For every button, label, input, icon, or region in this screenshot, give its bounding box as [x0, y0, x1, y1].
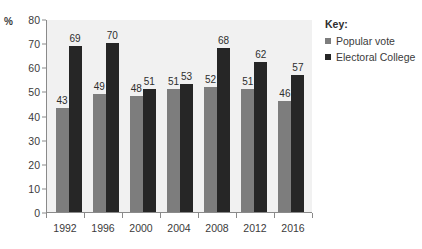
x-axis-tick-mark [160, 213, 161, 218]
bar-value-label: 46 [279, 89, 290, 101]
bar-column: 70 [106, 20, 119, 212]
y-axis-tick-mark [42, 44, 46, 45]
y-axis-tick-label: 0 [18, 207, 40, 219]
bar-column: 46 [278, 20, 291, 212]
x-axis-tick-mark [274, 213, 275, 218]
bar-electoral-college [69, 46, 82, 212]
y-axis-tick-label: 50 [18, 86, 40, 98]
x-axis-tick-label: 1992 [53, 222, 76, 234]
bar-column: 51 [241, 20, 254, 212]
bar-value-label: 48 [131, 84, 142, 96]
bars-layer: 4369497048515153526851624657 [47, 20, 312, 212]
legend-label: Popular vote [336, 35, 395, 47]
y-axis-tick-mark [42, 68, 46, 69]
y-axis-tick-label: 30 [18, 135, 40, 147]
x-axis-tick-mark [84, 213, 85, 218]
x-axis-tick-label: 2016 [281, 222, 304, 234]
bar-electoral-college [254, 62, 267, 212]
bar-column: 48 [130, 20, 143, 212]
bar-electoral-college [291, 75, 304, 213]
bar-chart: % 80706050403020100 43694970485151535268… [0, 0, 422, 249]
legend-entry: Popular vote [325, 35, 420, 47]
y-axis-unit-label: % [4, 16, 13, 27]
x-axis-tick-mark [236, 213, 237, 218]
legend-entries: Popular voteElectoral College [325, 35, 420, 63]
bar-electoral-college [106, 43, 119, 212]
y-axis-tick-mark [42, 92, 46, 93]
bar-group: 4970 [87, 20, 124, 212]
bar-group: 4369 [50, 20, 87, 212]
bar-group: 5162 [236, 20, 273, 212]
bar-group: 5268 [199, 20, 236, 212]
x-axis-tick-label: 2008 [205, 222, 228, 234]
bar-value-label: 53 [181, 72, 192, 84]
bar-column: 57 [291, 20, 304, 212]
bar-column: 53 [180, 20, 193, 212]
legend-swatch-icon [325, 54, 331, 60]
y-axis-tick-label: 40 [18, 111, 40, 123]
bar-group: 4657 [273, 20, 310, 212]
bar-value-label: 49 [94, 82, 105, 94]
bar-column: 68 [217, 20, 230, 212]
bar-value-label: 43 [57, 96, 68, 108]
legend-label: Electoral College [336, 51, 415, 63]
x-axis-tick-label: 2012 [243, 222, 266, 234]
bar-group: 5153 [161, 20, 198, 212]
x-axis-tick-label: 2000 [129, 222, 152, 234]
bar-popular-vote [130, 96, 143, 212]
x-axis-tick-label: 1996 [91, 222, 114, 234]
bar-value-label: 69 [70, 34, 81, 46]
y-axis-tick-label: 60 [18, 62, 40, 74]
y-axis-tick-mark [42, 164, 46, 165]
bar-value-label: 70 [107, 31, 118, 43]
y-axis-tick-mark [42, 213, 46, 214]
bar-popular-vote [241, 89, 254, 212]
plot-area: 4369497048515153526851624657 [46, 20, 312, 213]
y-axis-tick-mark [42, 116, 46, 117]
bar-column: 52 [204, 20, 217, 212]
y-axis-tick-labels: 80706050403020100 [16, 0, 40, 249]
bar-group: 4851 [124, 20, 161, 212]
bar-electoral-college [180, 84, 193, 212]
x-axis-tick-mark [122, 213, 123, 218]
bar-column: 51 [143, 20, 156, 212]
bar-popular-vote [93, 94, 106, 212]
bar-column: 51 [167, 20, 180, 212]
legend-swatch-icon [325, 38, 331, 44]
bar-value-label: 51 [144, 77, 155, 89]
y-axis-tick-label: 20 [18, 159, 40, 171]
y-axis-tick-mark [42, 20, 46, 21]
bar-value-label: 57 [292, 63, 303, 75]
x-axis-tick-label: 2004 [167, 222, 190, 234]
bar-value-label: 52 [205, 75, 216, 87]
x-axis-tick-mark [198, 213, 199, 218]
bar-column: 49 [93, 20, 106, 212]
bar-column: 62 [254, 20, 267, 212]
y-axis-tick-label: 10 [18, 183, 40, 195]
y-axis-tick-label: 70 [18, 38, 40, 50]
chart-legend: Key: Popular voteElectoral College [325, 18, 420, 67]
bar-popular-vote [56, 108, 69, 212]
bar-popular-vote [204, 87, 217, 212]
bar-popular-vote [167, 89, 180, 212]
bar-electoral-college [217, 48, 230, 212]
bar-value-label: 68 [218, 36, 229, 48]
bar-popular-vote [278, 101, 291, 212]
bar-value-label: 51 [168, 77, 179, 89]
y-axis-tick-mark [42, 188, 46, 189]
bar-column: 43 [56, 20, 69, 212]
y-axis-tick-mark [42, 140, 46, 141]
legend-title: Key: [325, 18, 420, 30]
x-axis-tick-mark [312, 213, 313, 218]
x-axis-tick-mark [46, 213, 47, 218]
bar-electoral-college [143, 89, 156, 212]
legend-entry: Electoral College [325, 51, 420, 63]
bar-value-label: 51 [242, 77, 253, 89]
y-axis-tick-label: 80 [18, 14, 40, 26]
bar-column: 69 [69, 20, 82, 212]
bar-value-label: 62 [255, 50, 266, 62]
